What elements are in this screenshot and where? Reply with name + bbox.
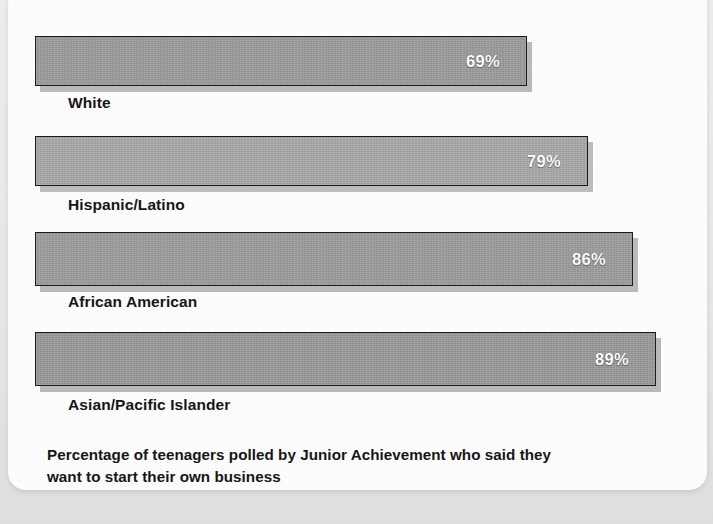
- category-label-white: White: [68, 94, 111, 112]
- bar-value-label-2: 86%: [572, 250, 632, 269]
- bar-group-1: 79%: [35, 136, 595, 188]
- bar-hispanic-latino[interactable]: 79%: [35, 136, 588, 186]
- bar-asian-pacific-islander[interactable]: 89%: [35, 332, 656, 386]
- chart-caption-line-1: Percentage of teenagers polled by Junior…: [47, 444, 667, 466]
- bar-value-label-1: 79%: [527, 152, 587, 171]
- page-background: 69% White 79% Hispanic/Latino 86% Africa…: [0, 0, 713, 524]
- chart-caption: Percentage of teenagers polled by Junior…: [47, 444, 667, 488]
- bar-group-2: 86%: [35, 232, 640, 288]
- category-label-hispanic-latino: Hispanic/Latino: [68, 196, 185, 214]
- category-label-african-american: African American: [68, 293, 197, 311]
- category-label-asian-pacific-islander: Asian/Pacific Islander: [68, 396, 230, 414]
- bar-white[interactable]: 69%: [35, 36, 527, 86]
- bar-african-american[interactable]: 86%: [35, 232, 633, 286]
- bar-group-0: 69%: [35, 36, 535, 88]
- bar-group-3: 89%: [35, 332, 663, 388]
- bar-value-label-0: 69%: [466, 52, 526, 71]
- chart-caption-line-2: want to start their own business: [47, 466, 667, 488]
- horizontal-bar-chart: 69% White 79% Hispanic/Latino 86% Africa…: [0, 0, 713, 524]
- bar-value-label-3: 89%: [595, 350, 655, 369]
